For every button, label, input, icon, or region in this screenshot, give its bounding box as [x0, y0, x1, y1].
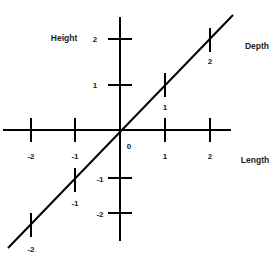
length-axis	[3, 118, 231, 142]
3d-axes-diagram: -2 -1 1 2 0 2 1 -1 -2 2 1 -1 -2 Height D…	[0, 0, 277, 260]
height-tick-label: -2	[96, 210, 104, 219]
length-axis-label: Length	[241, 155, 269, 165]
height-tick-label: 1	[93, 81, 98, 90]
depth-axis-label: Depth	[245, 41, 269, 51]
height-axis-label: Height	[51, 33, 78, 43]
length-tick-label: 1	[163, 152, 168, 161]
length-tick-label: -2	[27, 152, 35, 161]
length-tick-label: 2	[208, 152, 213, 161]
depth-tick-label: -2	[27, 245, 35, 254]
height-tick-label: 2	[93, 35, 98, 44]
depth-tick-label: 2	[208, 57, 213, 66]
depth-tick-label: -1	[71, 199, 79, 208]
depth-tick-label: 1	[163, 103, 168, 112]
origin-label: 0	[127, 142, 132, 151]
length-tick-label: -1	[71, 152, 79, 161]
height-tick-label: -1	[96, 175, 104, 184]
